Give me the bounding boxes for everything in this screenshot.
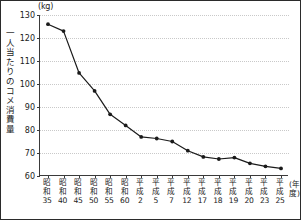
data-point — [77, 71, 81, 75]
data-point — [217, 157, 221, 161]
x-tick-label-era: 昭和 — [43, 178, 51, 196]
x-tick-label-era: 平成 — [136, 178, 144, 196]
y-tick-mark — [37, 176, 40, 177]
data-point — [155, 137, 159, 141]
x-tick-label-number: 25 — [275, 197, 286, 206]
x-tick-label-era: 平成 — [276, 178, 284, 196]
data-series — [40, 15, 289, 176]
data-point — [248, 161, 252, 165]
data-point — [46, 22, 50, 26]
x-axis-unit-label: (年度) — [289, 181, 300, 198]
x-tick-label-number: 2 — [135, 197, 146, 206]
x-tick-label: 昭和40 — [57, 179, 68, 205]
x-tick-label: 平成18 — [212, 179, 223, 205]
x-tick-label: 平成25 — [275, 179, 286, 205]
x-tick-label: 昭和35 — [42, 179, 53, 205]
x-tick-label-number: 5 — [150, 197, 161, 206]
x-tick-label-era: 昭和 — [121, 178, 129, 196]
data-point — [139, 135, 143, 139]
x-axis-labels-group: 昭和35昭和40昭和45昭和50昭和55昭和60平成2平成5平成7平成12平成1… — [39, 179, 288, 219]
data-point — [170, 140, 174, 144]
x-tick-label-era: 平成 — [183, 178, 191, 196]
x-tick-label: 平成17 — [197, 179, 208, 205]
x-tick-label-era: 平成 — [245, 178, 253, 196]
data-point — [233, 156, 237, 160]
y-tick-label: 70 — [9, 149, 35, 158]
x-tick-label-number: 20 — [243, 197, 254, 206]
x-tick-label-era: 平成 — [229, 178, 237, 196]
x-tick-label-era: 平成 — [198, 178, 206, 196]
data-point — [93, 89, 97, 93]
x-tick-label-era: 昭和 — [59, 178, 67, 196]
series-markers — [46, 22, 283, 170]
x-tick-label: 平成19 — [228, 179, 239, 205]
x-tick-label-era: 平成 — [260, 178, 268, 196]
x-tick-label-number: 12 — [181, 197, 192, 206]
data-point — [124, 124, 128, 128]
x-tick-label-era: 昭和 — [74, 178, 82, 196]
x-tick-label-era: 昭和 — [105, 178, 113, 196]
y-tick-label: 90 — [9, 103, 35, 112]
x-tick-label: 昭和55 — [104, 179, 115, 205]
y-tick-label: 100 — [9, 80, 35, 89]
data-point — [201, 155, 205, 159]
x-tick-label-number: 18 — [212, 197, 223, 206]
x-tick-label-number: 55 — [104, 197, 115, 206]
y-tick-label: 110 — [9, 57, 35, 66]
data-point — [186, 149, 190, 153]
plot-area — [39, 15, 288, 176]
x-tick-label-era: 昭和 — [90, 178, 98, 196]
x-tick-label: 平成7 — [166, 179, 177, 205]
x-tick-label: 平成5 — [150, 179, 161, 205]
x-tick-label: 平成2 — [135, 179, 146, 205]
x-tick-label: 昭和60 — [119, 179, 130, 205]
chart-figure: (kg) 一人当たりのコメ消費量 13012011010090807060 昭和… — [0, 0, 301, 220]
x-tick-label-number: 50 — [88, 197, 99, 206]
x-tick-label: 昭和45 — [73, 179, 84, 205]
data-point — [279, 167, 283, 171]
x-tick-label-number: 17 — [197, 197, 208, 206]
x-tick-label-number: 23 — [259, 197, 270, 206]
x-tick-label-number: 60 — [119, 197, 130, 206]
x-tick-label: 平成12 — [181, 179, 192, 205]
x-tick-label-era: 平成 — [214, 178, 222, 196]
x-tick-label-era: 平成 — [152, 178, 160, 196]
y-axis-unit-label: (kg) — [38, 2, 53, 11]
x-tick-label: 昭和50 — [88, 179, 99, 205]
x-tick-label: 平成23 — [259, 179, 270, 205]
x-tick-label-number: 7 — [166, 197, 177, 206]
data-point — [108, 112, 112, 116]
series-line — [48, 24, 281, 168]
data-point — [264, 164, 268, 168]
x-tick-label: 平成20 — [243, 179, 254, 205]
x-tick-label-era: 平成 — [167, 178, 175, 196]
y-tick-label: 120 — [9, 34, 35, 43]
y-tick-label: 130 — [9, 11, 35, 20]
y-tick-label: 80 — [9, 126, 35, 135]
x-tick-label-number: 19 — [228, 197, 239, 206]
x-tick-label-number: 40 — [57, 197, 68, 206]
x-tick-label-number: 35 — [42, 197, 53, 206]
x-tick-label-number: 45 — [73, 197, 84, 206]
data-point — [62, 29, 66, 33]
y-tick-label: 60 — [9, 172, 35, 181]
